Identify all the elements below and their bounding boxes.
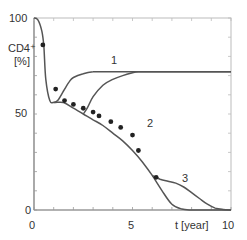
data-point [91,110,96,115]
data-point [40,42,45,47]
data-point [118,125,123,130]
plot-border [34,18,231,210]
x-tick-5: 5 [128,220,134,231]
y-tick-100: 100 [9,13,27,24]
y-axis-label: CD4⁺ [%] [6,42,38,68]
axis-ticks [34,18,231,210]
chart-canvas [0,0,247,240]
data-point [81,106,86,111]
baseline-line [34,18,231,210]
curve-label-2: 2 [147,117,153,129]
curve-label-3: 3 [182,172,188,184]
data-point [136,148,141,153]
data-point [130,133,135,138]
data-point [154,175,159,180]
data-point [97,114,102,119]
data-point [62,98,67,103]
curve-label-1: 1 [111,54,117,66]
data-point [53,87,58,92]
x-axis-label: t [year] [175,220,209,231]
curve-2-line [83,72,231,114]
y-axis-label-line2: [%] [6,55,38,68]
curve-1-line [54,72,231,103]
plot-frame [34,18,231,210]
data-point [71,102,76,107]
x-tick-10: 10 [222,220,234,231]
data-point [108,119,113,124]
y-tick-50: 50 [15,108,27,119]
x-tick-0: 0 [29,220,35,231]
y-axis-label-line1: CD4⁺ [6,42,38,55]
y-tick-0: 0 [25,205,31,216]
series-lines [34,18,231,210]
